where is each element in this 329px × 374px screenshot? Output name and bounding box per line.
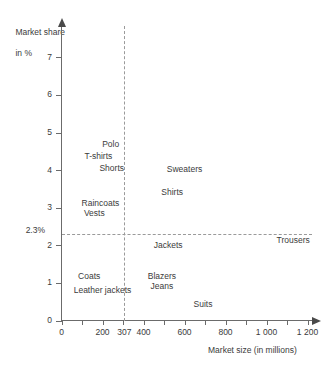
- data-point-label: Shorts: [99, 163, 124, 173]
- data-point-label: Vests: [84, 208, 105, 218]
- y-tick-mark: [56, 95, 62, 96]
- x-axis-arrow-icon: [312, 317, 321, 325]
- data-point-label: T-shirts: [84, 151, 112, 161]
- y-tick-label: 2: [12, 240, 52, 250]
- y-tick-mark: [56, 133, 62, 134]
- y-axis-arrow-icon: [58, 18, 66, 27]
- y-tick-mark: [56, 57, 62, 58]
- reference-line-vertical: [124, 26, 125, 321]
- data-point-label: Blazers: [148, 271, 176, 281]
- x-tick-label: 0: [40, 327, 84, 337]
- x-tick-label: 1 200: [286, 327, 329, 337]
- data-point-label: Leather jackets: [74, 285, 132, 295]
- data-point-label: Raincoats: [82, 198, 120, 208]
- data-point-label: Sweaters: [167, 164, 202, 174]
- y-tick-label: 3: [12, 202, 52, 212]
- data-point-label: Polo: [102, 139, 119, 149]
- data-point-label: Coats: [78, 271, 100, 281]
- x-tick-label: 800: [204, 327, 248, 337]
- y-tick-label: 4: [12, 165, 52, 175]
- x-tick-mark: [103, 320, 104, 325]
- y-tick-label: 0: [12, 315, 52, 325]
- x-tick-mark: [185, 320, 186, 325]
- x-tick-label: 600: [163, 327, 207, 337]
- x-tick-mark: [82, 320, 83, 325]
- x-tick-label: 1 000: [245, 327, 289, 337]
- x-tick-mark: [164, 320, 165, 325]
- y-tick-mark: [56, 170, 62, 171]
- y-tick-mark: [56, 245, 62, 246]
- y-tick-mark: [56, 208, 62, 209]
- reference-line-label: 2.3%: [5, 225, 45, 235]
- data-point-label: Jackets: [154, 240, 183, 250]
- y-tick-label: 6: [12, 89, 52, 99]
- y-tick-label: 5: [12, 127, 52, 137]
- market-share-scatter-chart: Market share in % Market size (in millio…: [0, 0, 329, 374]
- x-tick-label: 400: [122, 327, 166, 337]
- data-point-label: Jeans: [151, 281, 174, 291]
- x-tick-mark: [308, 320, 309, 325]
- y-axis-title-line1: Market share: [15, 27, 65, 37]
- data-point-label: Suits: [193, 299, 212, 309]
- x-tick-mark: [123, 320, 124, 325]
- x-tick-mark: [62, 320, 63, 325]
- x-tick-mark: [267, 320, 268, 325]
- reference-line-horizontal: [62, 234, 313, 235]
- data-point-label: Trousers: [277, 235, 310, 245]
- x-tick-mark: [144, 320, 145, 325]
- x-tick-mark: [205, 320, 206, 325]
- x-axis-line: [61, 320, 314, 321]
- x-axis-title: Market size (in millions): [208, 345, 297, 356]
- y-tick-mark: [56, 283, 62, 284]
- y-tick-label: 1: [12, 277, 52, 287]
- x-tick-mark: [287, 320, 288, 325]
- y-tick-label: 7: [12, 52, 52, 62]
- x-tick-mark: [246, 320, 247, 325]
- data-point-label: Shirts: [161, 187, 183, 197]
- x-tick-mark: [226, 320, 227, 325]
- y-axis-line: [61, 26, 62, 321]
